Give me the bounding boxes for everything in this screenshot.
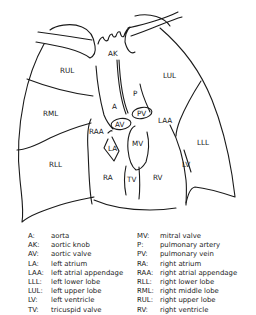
legend-item: RLL:right lower lobe [137, 278, 237, 287]
label-LUL: LUL [163, 71, 176, 80]
legend-item: LA:left atrium [28, 260, 123, 269]
legend-item: LLL:left lower lobe [28, 278, 123, 287]
heart-lower-border [94, 200, 176, 210]
label-RA: RA [103, 173, 113, 182]
label-LLL: LLL [197, 138, 209, 147]
label-A: A [112, 102, 117, 111]
legend-left-column: A:aorta AK:aortic knob AV:aortic valve L… [28, 232, 123, 315]
label-TV: TV [126, 175, 136, 184]
left-oblique-fissure [176, 81, 201, 136]
label-MV: MV [132, 139, 143, 148]
right-oblique-fissure [17, 123, 91, 150]
label-RAA: RAA [89, 127, 104, 136]
raa-tick [108, 131, 112, 133]
right-horizontal-fissure [27, 79, 93, 96]
label-RML: RML [43, 109, 58, 118]
legend-right-column: MV:mitral valve P:pulmonary artery PV:pu… [137, 232, 237, 315]
label-AK: AK [108, 49, 118, 58]
label-PV: PV [137, 109, 146, 118]
legend-item: TV:tricuspid valve [28, 306, 123, 315]
legend-item: AV:aortic valve [28, 250, 123, 259]
label-LA: LA [108, 144, 117, 153]
right-lung-outline [18, 25, 95, 222]
legend-item: LAA:left atrial appendage [28, 269, 123, 278]
legend-item: RML:right middle lobe [137, 287, 237, 296]
legend-item: LUL:left upper lobe [28, 287, 123, 296]
label-RV: RV [153, 173, 163, 182]
label-LAA: LAA [158, 116, 172, 125]
legend-item: MV:mitral valve [137, 232, 237, 241]
label-RLL: RLL [49, 160, 62, 169]
legend-item: RA:right atrium [137, 260, 237, 269]
legend-item: PV:pulmonary vein [137, 250, 237, 259]
legend-item: LV:left ventricle [28, 296, 123, 305]
label-AV: AV [115, 120, 124, 129]
label-RUL: RUL [60, 66, 74, 75]
legend-item: AK:aortic knob [28, 241, 123, 250]
aorta-left-edge [96, 66, 113, 129]
mitral-valve [128, 126, 149, 170]
label-LV: LV [182, 160, 190, 169]
legend-item: RAA:right atrial appendage [137, 269, 237, 278]
label-P: P [133, 89, 138, 98]
legend-item: P:pulmonary artery [137, 241, 237, 250]
legend-item: A:aorta [28, 232, 123, 241]
legend-item: RUL:right upper lobe [137, 296, 237, 305]
legend-item: RV:right ventricle [137, 306, 237, 315]
